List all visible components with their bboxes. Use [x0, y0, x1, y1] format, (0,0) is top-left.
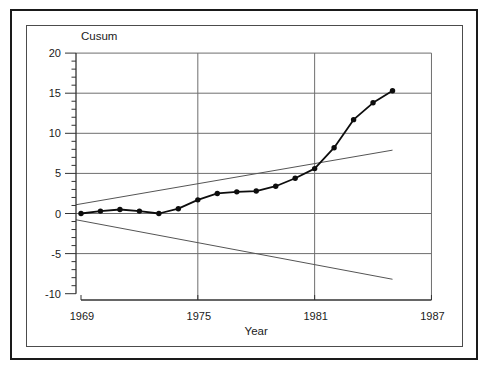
cusum-series-line: [81, 91, 393, 214]
x-tick-label: 1969: [70, 310, 94, 322]
data-point: [137, 208, 142, 213]
y-tick-label: -10: [45, 288, 61, 300]
data-point: [156, 211, 161, 216]
data-point: [273, 184, 278, 189]
x-tick-label: 1975: [187, 310, 211, 322]
data-point: [215, 191, 220, 196]
y-tick-label: -5: [51, 248, 61, 260]
cusum-chart: -10-5051015201969197519811987CusumYear: [0, 0, 488, 367]
data-point: [390, 88, 395, 93]
y-tick-label: 10: [49, 127, 61, 139]
data-point: [195, 197, 200, 202]
data-point: [351, 117, 356, 122]
y-tick-label: 15: [49, 87, 61, 99]
y-tick-label: 5: [55, 167, 61, 179]
data-point: [176, 206, 181, 211]
data-point: [78, 211, 83, 216]
y-tick-label: 0: [55, 208, 61, 220]
x-tick-label: 1981: [303, 310, 327, 322]
data-point: [312, 166, 317, 171]
data-point: [117, 207, 122, 212]
x-tick-label: 1987: [420, 310, 444, 322]
data-point: [370, 100, 375, 105]
y-axis-title: Cusum: [81, 30, 117, 42]
data-point: [98, 208, 103, 213]
data-point: [331, 145, 336, 150]
data-point: [254, 188, 259, 193]
page: { "figure": { "background": "#ffffff", "…: [0, 0, 488, 367]
data-point: [292, 176, 297, 181]
y-tick-label: 20: [49, 47, 61, 59]
x-axis-title: Year: [245, 325, 268, 337]
lower-boundary-line: [76, 220, 393, 279]
data-point: [234, 189, 239, 194]
upper-boundary-line: [76, 150, 393, 205]
